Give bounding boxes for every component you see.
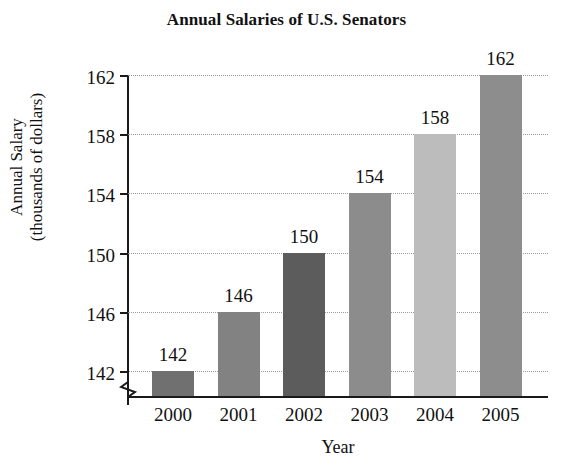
y-axis-tick: 158 [120,134,128,136]
y-axis-tick-label: 150 [87,245,116,264]
y-axis-tick-label: 158 [87,127,116,146]
bar-value-label: 150 [290,227,319,246]
y-axis-tick-label: 162 [87,68,116,87]
bar: 162 [480,75,522,396]
x-axis-tick-label: 2005 [469,405,533,424]
x-axis-line [127,396,548,398]
bar-value-label: 154 [355,167,384,186]
axis-break-icon [119,371,139,405]
y-axis-tick-label: 146 [87,304,116,323]
x-axis-tick-label: 2000 [141,405,205,424]
x-axis-tick-label: 2002 [272,405,336,424]
x-axis-tick-label: 2004 [403,405,467,424]
x-axis-tick-label: 2001 [207,405,271,424]
bar: 146 [218,312,260,396]
y-axis-tick: 150 [120,253,128,255]
y-axis-label: Annual Salary (thousands of dollars) [7,47,61,287]
bar-chart: Annual Salaries of U.S. Senators Annual … [0,0,573,475]
chart-title: Annual Salaries of U.S. Senators [0,10,573,30]
bar: 150 [283,253,325,396]
y-axis-label-line-2: (thousands of dollars) [27,47,47,287]
x-axis-label: Year [128,437,548,458]
y-axis-tick-label: 142 [87,364,116,383]
bar: 158 [414,134,456,396]
bar-value-label: 142 [159,345,188,364]
bar: 142 [152,371,194,396]
bar-value-label: 162 [486,49,515,68]
plot-area: 142146150154158162 142146150154158162 20… [128,75,548,398]
bar-value-label: 158 [421,108,450,127]
y-axis-tick: 146 [120,312,128,314]
bar-value-label: 146 [224,286,253,305]
y-axis-tick: 162 [120,75,128,77]
y-axis-tick: 154 [120,193,128,195]
y-axis-label-line-1: Annual Salary [7,47,27,287]
y-axis-tick-label: 154 [87,186,116,205]
x-axis-tick-label: 2003 [338,405,402,424]
y-axis-line [127,75,129,398]
bar: 154 [349,193,391,396]
